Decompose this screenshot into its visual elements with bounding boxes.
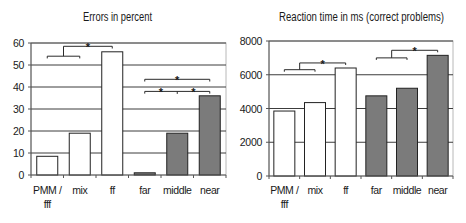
bar-near [199,96,220,175]
bar-mix [69,133,90,175]
y-tick-label: 6000 [240,69,263,81]
y-tick-label: 30 [13,103,25,115]
significance-star-icon: * [159,86,164,98]
x-tick-label: far [371,184,383,196]
chart-title: Reaction time in ms (correct problems) [279,10,444,24]
x-tick-label-line: far [139,184,151,196]
chart-title: Errors in percent [83,10,153,24]
x-tick-label: PMM /fff [33,184,62,210]
bars [274,55,448,176]
x-tick-label: middle [163,184,192,196]
y-tick-label: 60 [13,37,25,49]
x-tick-label-line: middle [163,184,192,196]
x-tick-label: mix [307,184,323,196]
gridlines [31,43,226,153]
y-tick-label: 8000 [240,35,263,47]
significance-star-icon: * [191,86,196,98]
bar-ff [102,52,123,175]
significance-brackets: **** [47,41,210,98]
figure: Errors in percent0102030405060PMM /fffmi… [0,0,466,223]
bracket-line [284,70,315,72]
x-tick-label: near [428,184,448,196]
significance-star-icon: * [413,45,418,57]
x-tick-label-line: mix [72,184,88,196]
bar-middle [167,133,188,175]
x-tick-label: ff [110,184,115,196]
x-tick-label-line: fff [44,198,52,210]
significance-bracket: * [145,74,210,86]
x-tick-label-line: near [200,184,220,196]
significance-bracket [47,56,80,58]
bracket-line [47,56,80,58]
significance-star-icon: * [175,74,180,86]
bar-middle [397,88,418,176]
bar-pmm-fff [274,111,295,176]
x-tick-label: ff [343,184,348,196]
y-tick-label: 2000 [240,136,263,148]
x-tick-label: mix [72,184,88,196]
y-tick-label: 10 [13,147,25,159]
significance-brackets: ** [284,45,437,71]
bracket-line [376,58,407,60]
y-tick-label: 40 [13,81,25,93]
significance-star-icon: * [86,41,91,53]
y-tick-label: 20 [13,125,25,137]
x-tick-label-line: middle [393,184,422,196]
gridlines [269,41,453,142]
x-tick-label: far [139,184,151,196]
significance-bracket [284,70,315,72]
x-tick-label: middle [393,184,422,196]
y-tick-label: 50 [13,59,25,71]
y-tick-label: 0 [256,170,262,182]
bar-far [366,96,387,176]
y-tick-label: 0 [18,169,24,181]
y-tick-label: 4000 [240,103,263,115]
x-tick-label-line: ff [110,184,115,196]
x-tick-label-line: fff [281,198,289,210]
x-tick-label-line: near [428,184,448,196]
chart-errors: Errors in percent0102030405060PMM /fffmi… [13,10,226,210]
bar-ff [335,68,356,176]
x-tick-label-line: ff [343,184,348,196]
bar-near [427,55,448,176]
bar-mix [305,103,326,176]
significance-bracket [376,58,407,60]
x-tick-label: PMM /fff [270,184,299,210]
x-tick-label-line: mix [307,184,323,196]
x-tick-label-line: PMM / [270,184,299,196]
chart-reaction-time: Reaction time in ms (correct problems)02… [240,10,453,210]
significance-star-icon: * [321,58,326,70]
bracket-line [145,91,210,94]
x-tick-label-line: PMM / [33,184,62,196]
bar-pmm-fff [37,156,58,175]
x-tick-label-line: far [371,184,383,196]
x-tick-label: near [200,184,220,196]
bars [37,52,221,175]
